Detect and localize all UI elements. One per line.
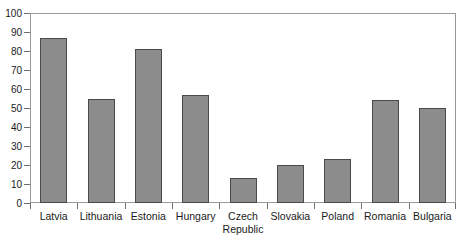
x-tick-mark bbox=[314, 203, 315, 209]
y-tick-label: 90 bbox=[11, 27, 22, 38]
bar bbox=[40, 38, 67, 203]
x-axis-labels: LatviaLithuaniaEstoniaHungaryCzechRepubl… bbox=[30, 210, 456, 241]
x-tick-label: Latvia bbox=[40, 210, 68, 223]
bar bbox=[182, 95, 209, 203]
y-tick-label: 30 bbox=[11, 141, 22, 152]
x-tick-label-line: Poland bbox=[321, 210, 354, 222]
x-tick-mark bbox=[125, 203, 126, 209]
x-tick-mark bbox=[77, 203, 78, 209]
x-tick-mark bbox=[30, 203, 31, 209]
y-axis-labels: 0102030405060708090100 bbox=[0, 13, 22, 203]
x-tick-label: CzechRepublic bbox=[223, 210, 264, 236]
x-tick-label-line: Lithuania bbox=[80, 210, 123, 222]
bar-chart: 0102030405060708090100 LatviaLithuaniaEs… bbox=[0, 0, 468, 241]
bar bbox=[88, 99, 115, 204]
y-tick-label: 100 bbox=[5, 8, 22, 19]
y-tick-label: 60 bbox=[11, 84, 22, 95]
x-tick-label-line: Estonia bbox=[131, 210, 166, 222]
x-tick-label-line: Czech bbox=[228, 210, 258, 222]
x-tick-mark bbox=[409, 203, 410, 209]
x-tick-mark bbox=[172, 203, 173, 209]
bar bbox=[419, 108, 446, 203]
bars-layer bbox=[30, 13, 456, 203]
x-axis-ticks bbox=[30, 203, 456, 209]
x-tick-label-line: Republic bbox=[223, 223, 264, 236]
y-tick-label: 50 bbox=[11, 103, 22, 114]
y-tick-label: 40 bbox=[11, 122, 22, 133]
x-tick-label-line: Hungary bbox=[176, 210, 216, 222]
y-tick-label: 0 bbox=[16, 198, 22, 209]
x-tick-label: Slovakia bbox=[270, 210, 310, 223]
x-tick-label: Romania bbox=[364, 210, 406, 223]
x-tick-label-line: Slovakia bbox=[270, 210, 310, 222]
bar bbox=[372, 100, 399, 203]
y-tick-label: 20 bbox=[11, 160, 22, 171]
x-tick-label: Estonia bbox=[131, 210, 166, 223]
y-tick-label: 10 bbox=[11, 179, 22, 190]
x-tick-label: Hungary bbox=[176, 210, 216, 223]
x-tick-mark bbox=[361, 203, 362, 209]
x-tick-label-line: Latvia bbox=[40, 210, 68, 222]
bar bbox=[135, 49, 162, 203]
bar bbox=[324, 159, 351, 203]
x-tick-label: Bulgaria bbox=[413, 210, 452, 223]
x-tick-label-line: Romania bbox=[364, 210, 406, 222]
x-tick-label: Poland bbox=[321, 210, 354, 223]
x-tick-mark bbox=[455, 203, 456, 209]
x-tick-mark bbox=[267, 203, 268, 209]
x-tick-mark bbox=[219, 203, 220, 209]
x-tick-label: Lithuania bbox=[80, 210, 123, 223]
y-tick-label: 80 bbox=[11, 46, 22, 57]
x-tick-label-line: Bulgaria bbox=[413, 210, 452, 222]
bar bbox=[230, 178, 257, 203]
y-tick-label: 70 bbox=[11, 65, 22, 76]
bar bbox=[277, 165, 304, 203]
